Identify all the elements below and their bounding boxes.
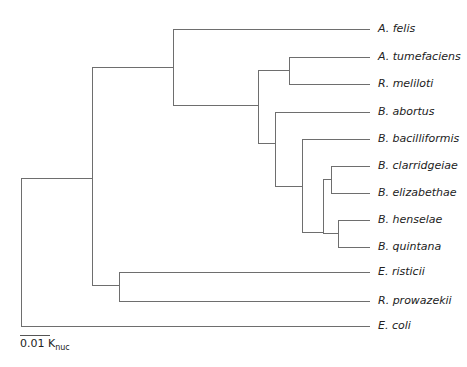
scale-subscript: nuc: [55, 343, 70, 352]
leaf-label-b-clarridgeiae: B. clarridgeiae: [378, 160, 458, 172]
scale-value: 0.01 K: [20, 337, 55, 350]
node-rhizobiaceae: [289, 57, 370, 84]
leaf-label-e-coli: E. coli: [378, 320, 411, 332]
node-alpha: [173, 29, 370, 105]
node-ingroup: [92, 67, 173, 285]
scale-bar-line: [20, 335, 50, 336]
leaf-label-a-tumefaciens: A. tumefaciens: [378, 51, 461, 63]
leaf-label-r-meliloti: R. meliloti: [378, 78, 433, 90]
leaf-label-b-bacilliformis: B. bacilliformis: [378, 133, 459, 145]
node-258: [258, 70, 289, 143]
node-331: [331, 166, 370, 193]
leaf-label-a-felis: A. felis: [378, 23, 415, 35]
leaf-label-b-quintana: B. quintana: [378, 241, 441, 253]
scale-bar-label: 0.01 Knuc: [20, 337, 70, 352]
leaf-label-b-abortus: B. abortus: [378, 106, 435, 118]
leaf-label-r-prowazekii: R. prowazekii: [378, 295, 452, 307]
root-branch: [21, 178, 370, 326]
node-302: [302, 139, 370, 232]
node-275: [275, 112, 370, 186]
node-338: [338, 220, 370, 247]
node-rickettsiales: [119, 272, 370, 301]
leaf-label-b-elizabethae: B. elizabethae: [378, 187, 456, 199]
leaf-label-e-risticii: E. risticii: [378, 266, 425, 278]
leaf-label-b-henselae: B. henselae: [378, 214, 442, 226]
